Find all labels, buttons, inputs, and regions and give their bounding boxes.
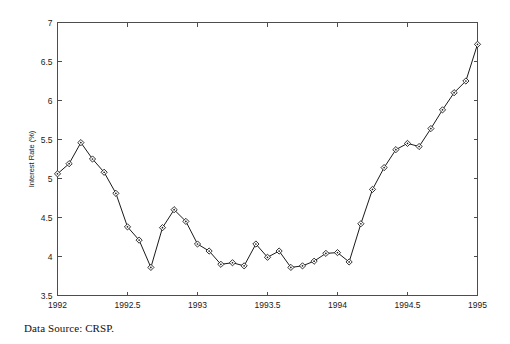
series-polyline — [58, 44, 478, 267]
data-point-center — [290, 267, 292, 269]
data-point-center — [313, 260, 315, 262]
y-axis-title-text: Interest Rate (%) — [27, 130, 36, 187]
x-tick-label: 1993.5 — [255, 300, 281, 310]
data-point-center — [395, 149, 397, 151]
data-point-center — [173, 209, 175, 211]
x-tick-label: 1994 — [328, 300, 347, 310]
data-point-center — [220, 263, 222, 265]
data-point-center — [115, 192, 117, 194]
data-point-center — [197, 243, 199, 245]
x-tick-label: 1993 — [188, 300, 207, 310]
data-point-center — [208, 250, 210, 252]
data-point-center — [127, 226, 129, 228]
y-tick-label: 4.5 — [41, 213, 53, 223]
data-point-center — [138, 239, 140, 241]
data-point-center — [337, 252, 339, 254]
x-tick-label: 1992 — [48, 300, 67, 310]
y-tick-label: 5 — [48, 174, 53, 184]
data-point-center — [80, 142, 82, 144]
y-tick-label: 7 — [48, 18, 53, 28]
data-point-center — [465, 80, 467, 82]
data-markers-group — [54, 41, 480, 270]
tick-labels-group: 3.544.555.566.5719921992.519931993.51994… — [41, 18, 488, 310]
data-point-center — [92, 158, 94, 160]
data-point-center — [150, 267, 152, 269]
data-point-center — [325, 253, 327, 255]
data-point-center — [360, 223, 362, 225]
y-tick-label: 6.5 — [41, 57, 53, 67]
data-point-center — [383, 167, 385, 169]
x-tick-label: 1992.5 — [115, 300, 141, 310]
data-point-center — [477, 43, 479, 45]
y-tick-label: 4 — [48, 252, 53, 262]
data-point-center — [267, 256, 269, 258]
figure-panel: 3.544.555.566.5719921992.519931993.51994… — [0, 0, 510, 344]
x-tick-label: 1995 — [468, 300, 487, 310]
data-point-center — [302, 265, 304, 267]
data-point-center — [348, 261, 350, 263]
figure-caption: Data Source: CRSP. — [24, 322, 114, 334]
data-point-center — [57, 173, 59, 175]
data-point-center — [68, 163, 70, 165]
y-axis-title: Interest Rate (%) — [27, 130, 36, 187]
data-point-center — [162, 227, 164, 229]
data-point-center — [430, 128, 432, 130]
data-series-group — [58, 44, 478, 267]
data-point-center — [243, 265, 245, 267]
x-tick-label: 1994.5 — [395, 300, 421, 310]
data-point-center — [185, 221, 187, 223]
data-point-center — [232, 262, 234, 264]
data-point-center — [442, 109, 444, 111]
data-point-center — [103, 171, 105, 173]
data-point-center — [255, 243, 257, 245]
interest-rate-line-chart: 3.544.555.566.5719921992.519931993.51994… — [0, 0, 510, 344]
data-point-center — [418, 146, 420, 148]
y-tick-label: 5.5 — [41, 135, 53, 145]
data-point-center — [372, 189, 374, 191]
data-point-center — [407, 143, 409, 145]
data-point-center — [453, 92, 455, 94]
y-tick-label: 6 — [48, 96, 53, 106]
data-point-center — [278, 250, 280, 252]
